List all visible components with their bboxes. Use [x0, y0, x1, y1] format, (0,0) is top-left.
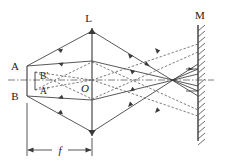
ray-B-to-lens-bottom [27, 96, 92, 132]
label-object-bottom-B: B [11, 90, 18, 102]
dashed-ray-post-lens-down [92, 80, 198, 116]
label-image-top-Bprime: B′ [40, 71, 48, 81]
label-lens-center-O: O [81, 82, 89, 94]
label-image-bottom-Aprime: A′ [40, 86, 49, 96]
label-mirror-M: M [195, 9, 205, 21]
label-focal-length-f: f [58, 144, 63, 156]
mirror-hatching [198, 25, 205, 145]
optics-ray-diagram: L M A B B′ A′ O f [0, 0, 225, 164]
solid-ray-bundle [27, 31, 198, 132]
label-lens-L: L [85, 12, 92, 24]
ray-lensmidlow-to-mirror [92, 74, 198, 100]
label-object-top-A: A [11, 60, 19, 72]
ray-mirror-return-upper [172, 69, 198, 80]
mirror-element [198, 25, 205, 145]
ray-A-to-lens-top [27, 31, 92, 66]
diagram-canvas: L M A B B′ A′ O f [8, 9, 214, 156]
lens-element [88, 28, 96, 136]
ray-lenstop-to-mirror-low [92, 31, 198, 96]
